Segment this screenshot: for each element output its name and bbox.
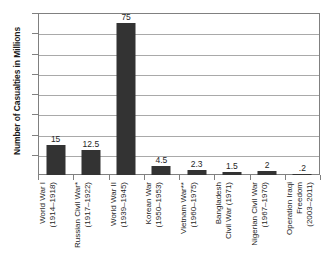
- x-axis-labels-group: World War I(1914–1918)Russian Civil War*…: [38, 182, 320, 274]
- bar[interactable]: [293, 174, 312, 176]
- bar-slot: 4.5: [144, 13, 179, 175]
- x-axis-category-label-line: (1914–1918): [48, 182, 58, 270]
- bar[interactable]: [187, 170, 206, 175]
- bar-slot: 2: [250, 13, 285, 175]
- x-axis-tick-mark: [109, 175, 110, 180]
- x-axis-category-label-line: World War I: [38, 182, 48, 270]
- bar[interactable]: [258, 171, 277, 175]
- x-axis-category-label: Nigerian Civil War(1967–1970): [250, 182, 285, 270]
- x-axis-category-label-line: Russian Civil War*: [73, 182, 83, 270]
- x-axis-category-label: Russian Civil War*(1917–1922): [73, 182, 108, 270]
- bar-value-label: 4.5: [155, 155, 167, 165]
- bar-slot: 15: [38, 13, 73, 175]
- bar[interactable]: [46, 145, 65, 175]
- x-axis-tick-mark: [214, 175, 215, 180]
- x-axis-category-label-line: (1950–1953): [154, 182, 164, 270]
- x-axis-category-label-line: (2003–2011): [305, 182, 314, 227]
- x-axis-category-label-line: Nigerian Civil War: [250, 182, 260, 270]
- bar-value-label: 75: [121, 12, 130, 22]
- bar-slot: 1.5: [214, 13, 249, 175]
- x-axis-tick-mark: [320, 175, 321, 180]
- x-axis-category-label-line: (1917–1922): [83, 182, 93, 270]
- x-axis-category-label: Operation IraqiFreedom(2003–2011): [285, 182, 320, 270]
- y-axis-tick-mark: [32, 114, 38, 115]
- x-axis-tick-mark: [73, 175, 74, 180]
- x-axis-category-label-line: Operation Iraqi: [285, 182, 295, 270]
- y-axis-tick-mark: [32, 155, 38, 156]
- x-axis-category-label: World War I(1914–1918): [38, 182, 73, 270]
- bar-slot: 12.5: [73, 13, 108, 175]
- x-axis-category-label-line: (1939–1945): [119, 182, 129, 270]
- bar-value-label: 1.5: [226, 161, 238, 171]
- x-axis-category-label: Korean War(1950–1953): [144, 182, 179, 270]
- x-axis-tick-mark: [179, 175, 180, 180]
- bar-value-label: 2: [265, 160, 270, 170]
- bar-slot: 2.3: [179, 13, 214, 175]
- bar[interactable]: [222, 172, 241, 175]
- bar-slot: 75: [109, 13, 144, 175]
- x-axis-category-label-line: (1967–1970): [260, 182, 270, 270]
- x-axis-category-label-line: Korean War: [144, 182, 154, 270]
- y-axis-tick-mark: [32, 135, 38, 136]
- bar-slot: .2: [285, 13, 320, 175]
- bar-value-label: .2: [299, 163, 306, 173]
- y-axis-tick-mark: [32, 33, 38, 34]
- x-axis-category-label: World War II(1939–1945): [109, 182, 144, 270]
- x-axis-tick-mark: [38, 175, 39, 180]
- x-axis-tick-mark: [285, 175, 286, 180]
- bar[interactable]: [81, 150, 100, 175]
- bar[interactable]: [152, 166, 171, 175]
- x-axis-category-label: Vietnam War**(1960–1975): [179, 182, 214, 270]
- bar-value-label: 2.3: [191, 159, 203, 169]
- casualties-bar-chart: Number of Casualties in Millions 1512.57…: [0, 0, 336, 277]
- x-axis-tick-mark: [144, 175, 145, 180]
- x-axis-category-label-line: (1960–1975): [189, 182, 199, 270]
- x-axis-category-label-line: Vietnam War**: [179, 182, 189, 270]
- x-axis-category-label-line: World War II: [109, 182, 119, 270]
- x-axis-category-label-line: Bangladesh: [214, 182, 224, 270]
- x-axis-category-label-line: Freedom: [295, 182, 305, 270]
- bar[interactable]: [117, 23, 136, 175]
- y-axis-tick-mark: [32, 94, 38, 95]
- y-axis-title: Number of Casualties in Millions: [10, 8, 24, 174]
- y-axis-tick-mark: [32, 74, 38, 75]
- y-axis-tick-mark: [32, 13, 38, 14]
- x-axis-category-label: BangladeshCivil War (1971): [214, 182, 249, 270]
- y-axis-tick-mark: [32, 54, 38, 55]
- bars-group: 1512.5754.52.31.52.2: [38, 13, 320, 175]
- x-axis-category-label-line: Civil War (1971): [224, 182, 234, 270]
- bar-value-label: 12.5: [83, 139, 100, 149]
- x-axis-tick-mark: [250, 175, 251, 180]
- bar-value-label: 15: [51, 134, 60, 144]
